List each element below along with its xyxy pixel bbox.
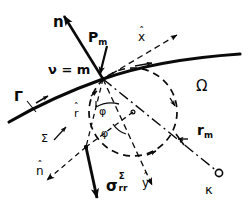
label-y-hat-axis: ˆy <box>142 177 149 189</box>
label-circle-sigma: Σ <box>41 133 48 144</box>
label-r-hat-direction: ˆr <box>74 108 79 119</box>
label-sigma-subscript: rr <box>119 184 128 193</box>
label-point-pm-subscript: m <box>98 37 107 47</box>
n-hat-vector <box>47 147 86 180</box>
label-angle-phi: φ <box>99 106 106 117</box>
label-nu-equals-m: ν = m <box>48 63 90 76</box>
circle-arrow-right <box>170 98 175 106</box>
label-point-pm: Pm <box>88 30 107 44</box>
label-radius-rm: rm <box>197 123 213 137</box>
label-x-hat-glyph: ˆx <box>138 31 145 43</box>
label-sigma-indices: Σrr <box>118 179 134 194</box>
stress-vector-sigma-rr <box>86 147 97 198</box>
label-x-hat-axis: ˆx <box>138 31 145 43</box>
kappa-point-marker <box>215 169 222 176</box>
label-n-hat-glyph: ˆn <box>36 165 44 177</box>
figure-container: n Pm ν = m Γ Ω ˆx ˆy ˆn ˆr φ φ Σ σΣrr rm… <box>0 0 251 218</box>
label-radius-rm-base: r <box>197 122 204 138</box>
label-radius-rm-subscript: m <box>204 130 213 140</box>
point-pm-leader-arrow <box>100 46 107 74</box>
label-boundary-curve-gamma: Γ <box>14 89 23 103</box>
hat-accent-icon: ˆ <box>143 172 148 183</box>
sigma-leader-arrow <box>54 127 66 140</box>
hat-accent-icon: ˆ <box>74 103 79 113</box>
label-normal-vector-n: n <box>53 15 64 30</box>
label-angle-varrho: φ <box>101 128 108 139</box>
label-domain-omega: Ω <box>196 79 207 94</box>
label-n-hat-vector: ˆn <box>36 165 44 177</box>
label-point-pm-base: P <box>88 29 98 45</box>
label-sigma-superscript: Σ <box>119 172 125 181</box>
y-hat-axis <box>103 79 152 185</box>
label-y-hat-glyph: ˆy <box>142 177 149 189</box>
sigma-surface-point-marker <box>84 145 88 149</box>
point-pm-marker <box>101 77 106 82</box>
label-kappa-point: κ <box>205 183 213 196</box>
label-stress-sigma-rr: σΣrr <box>106 179 133 194</box>
label-r-hat-glyph: ˆr <box>74 108 79 119</box>
hat-accent-icon: ˆ <box>37 160 42 171</box>
label-sigma-base: σ <box>106 177 118 195</box>
hat-accent-icon: ˆ <box>139 26 144 37</box>
